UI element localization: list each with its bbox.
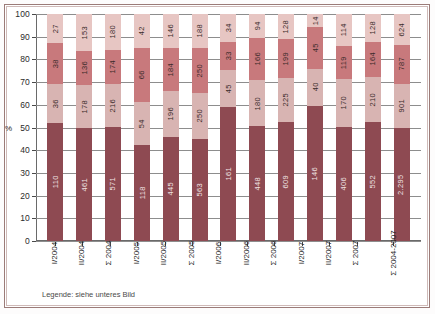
x-axis-tick-label: Σ 2006 xyxy=(270,241,278,266)
bar-segment[interactable]: 34 xyxy=(220,14,236,42)
bar-segment-value-label: 118 xyxy=(138,187,146,200)
bar-column[interactable]: 343345161 xyxy=(214,14,243,241)
bar-segment-value-label: 571 xyxy=(109,177,117,190)
bar-segment[interactable]: 174 xyxy=(105,50,121,85)
stacked-bar[interactable]: 153136178461 xyxy=(76,14,92,241)
bar-segment[interactable]: 146 xyxy=(307,106,323,241)
bar-segment[interactable]: 901 xyxy=(394,84,410,128)
stacked-bar[interactable]: 180174216571 xyxy=(105,14,121,241)
bar-segment[interactable]: 225 xyxy=(278,78,294,122)
bar-segment[interactable]: 552 xyxy=(365,122,381,241)
x-axis-tick-label: II/2004 xyxy=(78,241,86,265)
bar-column[interactable]: 426654118 xyxy=(128,14,157,241)
bar-segment[interactable]: 45 xyxy=(307,27,323,69)
stacked-bar[interactable]: 144540146 xyxy=(307,14,323,241)
bar-segment[interactable]: 146 xyxy=(163,14,179,48)
bar-column[interactable]: 153136178461 xyxy=(70,14,99,241)
y-axis-unit-label: % xyxy=(5,123,12,132)
bar-segment[interactable]: 161 xyxy=(220,107,236,241)
stacked-bar[interactable]: 128164210552 xyxy=(365,14,381,241)
y-axis-tick-label: 0 xyxy=(25,236,30,246)
stacked-bar[interactable]: 343345161 xyxy=(220,14,236,241)
bar-segment[interactable]: 110 xyxy=(47,123,63,241)
bar-column[interactable]: 114119170406 xyxy=(329,14,358,241)
stacked-bar[interactable]: 6247879012.295 xyxy=(394,14,410,241)
stacked-bar[interactable]: 273836110 xyxy=(47,14,63,241)
bar-segment[interactable]: 571 xyxy=(105,127,121,241)
bar-segment[interactable]: 178 xyxy=(76,85,92,129)
bar-segment[interactable]: 128 xyxy=(365,14,381,42)
bar-segment-value-label: 174 xyxy=(109,60,117,73)
bar-segment[interactable]: 210 xyxy=(365,77,381,122)
y-axis-tick xyxy=(32,241,36,242)
bar-column[interactable]: 180174216571 xyxy=(99,14,128,241)
bar-segment[interactable]: 94 xyxy=(249,14,265,38)
bar-segment[interactable]: 406 xyxy=(336,127,352,241)
bar-column[interactable]: 188250250563 xyxy=(185,14,214,241)
bar-segment-value-label: 164 xyxy=(369,53,377,66)
bar-segment[interactable]: 563 xyxy=(192,139,208,241)
bar-segment[interactable]: 445 xyxy=(163,137,179,241)
bar-segment[interactable]: 40 xyxy=(307,69,323,106)
bar-column[interactable]: 128199225609 xyxy=(272,14,301,241)
bar-column[interactable]: 94166180448 xyxy=(243,14,272,241)
bar-segment[interactable]: 250 xyxy=(192,48,208,93)
bar-segment[interactable]: 166 xyxy=(249,38,265,80)
bar-segment[interactable]: 787 xyxy=(394,45,410,84)
bar-segment[interactable]: 609 xyxy=(278,122,294,241)
stacked-bar[interactable]: 128199225609 xyxy=(278,14,294,241)
stacked-bar[interactable]: 146184196445 xyxy=(163,14,179,241)
bar-segment-value-label: 114 xyxy=(340,24,348,37)
bar-segment[interactable]: 188 xyxy=(192,14,208,48)
bar-segment[interactable]: 624 xyxy=(394,14,410,45)
bar-segment[interactable]: 216 xyxy=(105,84,121,127)
bar-segment-value-label: 250 xyxy=(196,64,204,77)
bar-segment[interactable]: 199 xyxy=(278,39,294,78)
bar-segment-value-label: 27 xyxy=(52,24,60,33)
x-axis-tick-label: Σ 2004-2007 xyxy=(389,230,397,275)
bar-segment[interactable]: 27 xyxy=(47,14,63,43)
bar-segment[interactable]: 54 xyxy=(134,102,150,146)
bar-segment[interactable]: 45 xyxy=(220,70,236,107)
bar-column[interactable]: 273836110 xyxy=(41,14,70,241)
bar-segment[interactable]: 196 xyxy=(163,91,179,137)
bar-segment[interactable]: 170 xyxy=(336,79,352,127)
bar-segment[interactable]: 136 xyxy=(76,51,92,84)
stacked-bar[interactable]: 188250250563 xyxy=(192,14,208,241)
bar-segment[interactable]: 180 xyxy=(105,14,121,50)
bar-segment-value-label: 33 xyxy=(225,52,233,61)
bar-segment[interactable]: 118 xyxy=(134,145,150,241)
bar-segment[interactable]: 2.295 xyxy=(394,128,410,241)
bar-column[interactable]: 146184196445 xyxy=(156,14,185,241)
bar-segment-value-label: 225 xyxy=(282,93,290,106)
bar-segment[interactable]: 184 xyxy=(163,48,179,91)
bar-segment[interactable]: 448 xyxy=(249,126,265,241)
bar-column[interactable]: 144540146 xyxy=(301,14,330,241)
y-axis-tick-label: 100 xyxy=(15,9,30,19)
bar-segment[interactable]: 461 xyxy=(76,128,92,241)
bar-segment[interactable]: 119 xyxy=(336,46,352,79)
stacked-bar[interactable]: 426654118 xyxy=(134,14,150,241)
bar-segment[interactable]: 66 xyxy=(134,48,150,102)
bar-segment[interactable]: 14 xyxy=(307,14,323,27)
bar-segment-value-label: 2.295 xyxy=(398,174,406,194)
bar-segment[interactable]: 128 xyxy=(278,14,294,39)
bar-segment[interactable]: 180 xyxy=(249,80,265,126)
bar-column[interactable]: 128164210552 xyxy=(358,14,387,241)
bar-segment-value-label: 153 xyxy=(81,26,89,39)
bar-segment[interactable]: 38 xyxy=(47,43,63,84)
stacked-bar[interactable]: 94166180448 xyxy=(249,14,265,241)
bar-segment[interactable]: 42 xyxy=(134,14,150,48)
bar-segment[interactable]: 250 xyxy=(192,93,208,138)
bar-segment[interactable]: 153 xyxy=(76,14,92,51)
bar-segment-value-label: 445 xyxy=(167,182,175,195)
bar-segment-value-label: 66 xyxy=(138,70,146,79)
bar-segment[interactable]: 33 xyxy=(220,42,236,69)
plot-area: 01020304050%60708090100 2738361101531361… xyxy=(36,14,421,241)
bar-column[interactable]: 6247879012.295 xyxy=(387,14,416,241)
bar-segment[interactable]: 36 xyxy=(47,84,63,123)
bar-segment[interactable]: 164 xyxy=(365,42,381,77)
bar-segment[interactable]: 114 xyxy=(336,14,352,46)
stacked-bar[interactable]: 114119170406 xyxy=(336,14,352,241)
bar-segment-value-label: 34 xyxy=(225,24,233,33)
